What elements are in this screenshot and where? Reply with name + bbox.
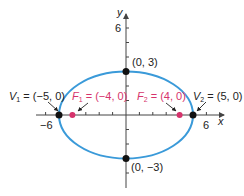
bottom-vertex-dot — [123, 155, 130, 162]
v1-pointer-arrow — [48, 102, 58, 111]
vertex-v2-dot — [190, 112, 197, 119]
f1-pointer-arrow — [78, 103, 88, 111]
ellipse-diagram: −6 6 x 6 y V1 = (−5, 0) — [0, 0, 244, 196]
vertex-v1-dot — [56, 112, 63, 119]
focus-f2-dot — [177, 112, 183, 118]
f2-pointer-arrow — [166, 103, 176, 111]
focus-f1-dot — [69, 112, 75, 118]
x-tick-label-6: 6 — [203, 119, 209, 131]
v2-label: V2 = (5, 0) — [193, 90, 243, 103]
v1-label: V1 = (−5, 0) — [9, 90, 65, 103]
y-axis-label: y — [116, 6, 124, 18]
top-vertex-label: (0, 3) — [132, 56, 158, 68]
bottom-vertex-label: (0, −3) — [131, 161, 163, 173]
y-tick-label-6: 6 — [115, 22, 121, 34]
x-tick-label-neg6: −6 — [40, 119, 53, 131]
f1-label: F1 = (−4, 0) — [72, 90, 127, 103]
x-axis-label: x — [217, 115, 224, 127]
v2-pointer-arrow — [197, 102, 206, 111]
top-vertex-dot — [123, 68, 130, 75]
f2-label: F2 = (4, 0) — [137, 90, 186, 103]
